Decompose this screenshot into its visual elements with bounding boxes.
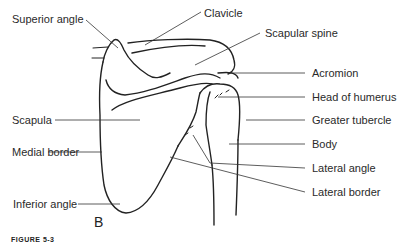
lateral-border [178, 93, 200, 146]
label-lateral-angle: Lateral angle [312, 162, 376, 174]
panel-letter: B [94, 214, 103, 230]
label-head-of-humerus: Head of humerus [312, 91, 396, 103]
figure-caption: FIGURE 5-3 [11, 236, 55, 243]
label-body: Body [312, 138, 337, 150]
label-scapular-spine: Scapular spine [265, 27, 338, 39]
humerus-shaft-right [236, 140, 238, 215]
superior-angle [103, 40, 170, 78]
label-superior-angle: Superior angle [12, 13, 84, 25]
label-acromion: Acromion [312, 67, 358, 79]
label-clavicle: Clavicle [204, 7, 243, 19]
label-greater-tubercle: Greater tubercle [312, 114, 391, 126]
clavicle [128, 39, 235, 74]
label-scapula: Scapula [12, 114, 52, 126]
label-medial-border: Medial border [12, 146, 79, 158]
label-inferior-angle: Inferior angle [13, 198, 77, 210]
humerus-shaft-left [212, 165, 214, 225]
label-lateral-border: Lateral border [312, 186, 381, 198]
